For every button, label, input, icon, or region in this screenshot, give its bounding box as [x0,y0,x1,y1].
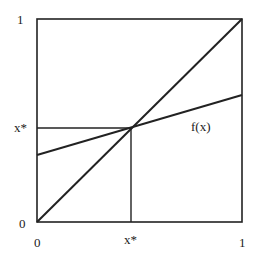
y-axis-label-1: 1 [17,12,24,27]
x-axis-label-1: 1 [239,235,246,250]
x-axis-label-fixed-point: x* [124,232,137,247]
fixed-point-diagram: 1 x* 0 0 x* 1 f(x) [0,0,254,254]
function-curve [37,95,242,155]
diagonal-line [37,19,242,222]
x-axis-label-0: 0 [34,235,41,250]
y-axis-label-0: 0 [19,216,26,231]
function-label: f(x) [191,119,211,134]
y-axis-label-fixed-point: x* [14,120,27,135]
